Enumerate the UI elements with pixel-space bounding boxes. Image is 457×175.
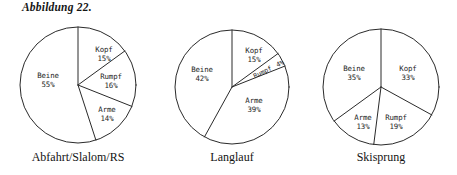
slice-label-arme: Arme 14%: [98, 105, 115, 123]
slice-label-beine: Beine 42%: [191, 65, 213, 83]
pie-chart-langlauf: Kopf 15% Rumpf 4% Arme 39% Beine 42% Lan…: [157, 0, 307, 175]
chart-caption-langlauf: Langlauf: [157, 150, 307, 165]
figure-abbildung-22: Abbildung 22. Kopf 15% Rumpf 16% Arme 14…: [0, 0, 457, 175]
slice-label-rumpf: Rumpf 19%: [385, 113, 407, 131]
pie-spoke-arme-beine: [204, 87, 232, 137]
pie-spoke-kopf-rumpf: [381, 87, 432, 115]
slice-label-arme: Arme 39%: [245, 96, 262, 114]
pie-chart-skisprung: Kopf 33% Rumpf 19% Arme 13% Beine 35% Sk…: [306, 0, 456, 175]
chart-caption-skisprung: Skisprung: [306, 150, 456, 165]
slice-label-beine: Beine 35%: [343, 64, 365, 82]
pie-chart-2-graphic: [157, 0, 307, 150]
pie-spoke-arme-beine: [78, 85, 96, 140]
slice-label-beine: Beine 55%: [37, 71, 59, 89]
pie-spoke-rumpf-arme: [374, 87, 381, 145]
slice-label-kopf: Kopf 15%: [95, 45, 112, 63]
slice-label-kopf: Kopf 15%: [245, 46, 262, 64]
pie-chart-1-graphic: [3, 0, 153, 150]
chart-caption-abfahrt-slalom-rs: Abfahrt/Slalom/RS: [3, 150, 153, 165]
slice-label-rumpf: Rumpf 16%: [100, 72, 122, 90]
pie-chart-3-graphic: [306, 0, 456, 150]
slice-label-arme: Arme 13%: [354, 113, 371, 131]
pie-chart-abfahrt-slalom-rs: Kopf 15% Rumpf 16% Arme 14% Beine 55% Ab…: [3, 0, 153, 175]
slice-label-kopf: Kopf 33%: [399, 64, 416, 82]
